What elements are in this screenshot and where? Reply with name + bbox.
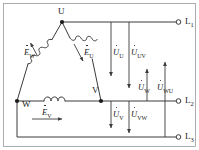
voltage-label-uuv: UUV	[131, 48, 146, 59]
voltage-label-uvw: UVW	[131, 110, 147, 121]
terminal-circle-l2	[176, 99, 181, 104]
terminal-circle-l1	[176, 20, 181, 25]
voltage-label-uvw-symbol: U	[131, 110, 137, 119]
voltage-label-uw: UW	[138, 83, 150, 94]
terminal-label-l3-sub: 3	[191, 136, 194, 143]
emf-label-ew-symbol: E	[24, 48, 29, 57]
voltage-label-uu: UU	[113, 48, 123, 59]
coil-winding-ew	[17, 22, 62, 101]
voltage-label-uuv-symbol: U	[131, 48, 137, 57]
voltage-label-uwu-symbol: U	[157, 83, 163, 92]
emf-label-ew: EW	[24, 48, 35, 59]
terminal-label-l1-sub: 1	[191, 21, 194, 28]
terminal-label-l3: L3	[185, 132, 194, 143]
voltage-label-uuv-sub: UV	[137, 53, 146, 59]
voltage-label-uu-sub: U	[119, 53, 123, 59]
terminal-label-l2-sub: 2	[191, 100, 194, 107]
emf-label-eu-sub: U	[89, 53, 93, 59]
emf-label-ev: EV	[42, 108, 52, 119]
emf-label-ev-sub: V	[47, 113, 51, 119]
voltage-label-uv: UV	[113, 110, 123, 121]
voltage-label-uw-symbol: U	[138, 83, 144, 92]
voltage-label-uv-symbol: U	[113, 110, 119, 119]
terminal-label-l2: L2	[185, 96, 194, 107]
diagram-border	[4, 4, 196, 147]
delta-connection-schematic	[0, 0, 199, 150]
voltage-label-uv-sub: V	[119, 115, 123, 121]
terminal-circle-l3	[176, 135, 181, 140]
emf-label-eu-symbol: E	[84, 48, 89, 57]
voltage-label-uw-sub: W	[144, 88, 150, 94]
node-dot-w	[15, 99, 19, 103]
node-label-v: V	[92, 86, 99, 95]
arrow-emf-eu	[74, 44, 83, 61]
node-label-w: W	[22, 100, 31, 109]
emf-label-ew-sub: W	[29, 53, 35, 59]
voltage-label-uwu-sub: WU	[163, 88, 173, 94]
node-dot-v	[99, 99, 103, 103]
terminal-label-l1: L1	[185, 17, 194, 28]
voltage-label-uvw-sub: VW	[137, 115, 147, 121]
voltage-label-uu-symbol: U	[113, 48, 119, 57]
circuit-diagram-canvas: U V W L1 L2 L3 EW EU EV UU UUV UV UVW UW…	[0, 0, 199, 150]
node-dot-u	[60, 20, 64, 24]
voltage-label-uwu: UWU	[157, 83, 173, 94]
emf-label-eu: EU	[84, 48, 94, 59]
node-label-u: U	[58, 7, 65, 16]
emf-label-ev-symbol: E	[42, 108, 47, 117]
